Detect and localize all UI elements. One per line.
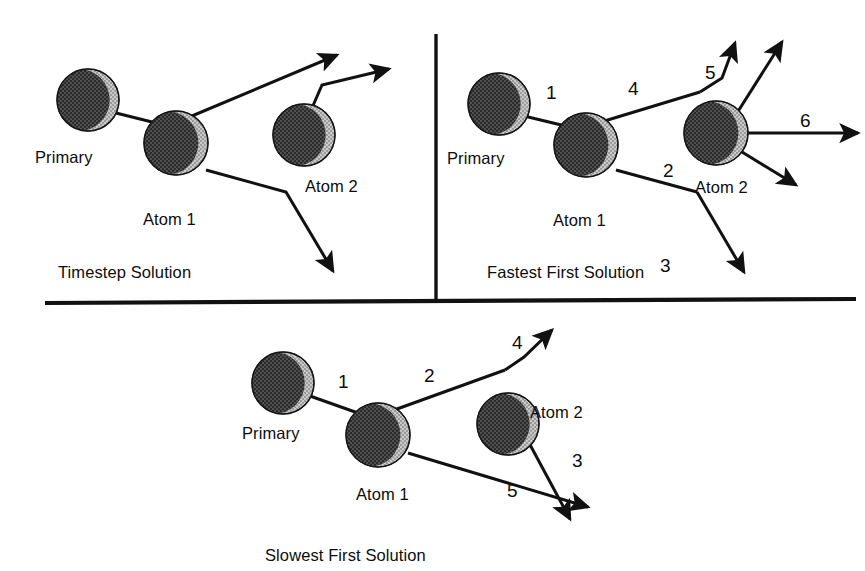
atom-label-timestep-primary: Primary xyxy=(35,148,93,167)
order-label-fastest-first-segment-4: 4 xyxy=(628,78,639,100)
cascade-solution-figure: PrimaryAtom 1Atom 2Timestep SolutionPrim… xyxy=(0,0,865,571)
atom-sphere-fastest-first-atom-2 xyxy=(674,101,748,165)
atom-sphere-fastest-first-primary xyxy=(459,73,530,135)
trajectory-timestep-atom2-recoil-up xyxy=(312,69,389,108)
atom-label-slowest-first-atom-2: Atom 2 xyxy=(530,403,583,422)
panel-caption-slowest-first: Slowest First Solution xyxy=(265,546,426,565)
order-label-slowest-first-segment-3: 3 xyxy=(572,450,583,472)
atom-label-slowest-first-primary: Primary xyxy=(242,424,300,443)
atom-sphere-timestep-atom-2 xyxy=(264,104,335,166)
trajectory-slowest-first-segment-3 xyxy=(528,441,570,519)
trajectory-slowest-first-segment-5 xyxy=(408,453,588,507)
order-label-slowest-first-segment-5: 5 xyxy=(507,480,518,502)
atom-label-timestep-atom-1: Atom 1 xyxy=(143,210,196,229)
order-label-slowest-first-segment-4: 4 xyxy=(512,332,523,354)
atom-sphere-slowest-first-atom-1 xyxy=(336,403,410,467)
order-label-fastest-first-segment-3: 3 xyxy=(660,255,671,277)
order-label-slowest-first-segment-1: 1 xyxy=(338,371,349,393)
order-label-fastest-first-segment-2: 2 xyxy=(663,160,674,182)
atom-label-fastest-first-atom-2: Atom 2 xyxy=(695,178,748,197)
atom-sphere-slowest-first-atom-2 xyxy=(468,393,539,455)
panel-caption-timestep: Timestep Solution xyxy=(58,263,191,282)
atom-label-slowest-first-atom-1: Atom 1 xyxy=(356,485,409,504)
order-label-fastest-first-segment-6: 6 xyxy=(800,110,811,132)
trajectory-fastest-first-segment-atom2-down xyxy=(742,152,796,185)
atom-sphere-timestep-primary xyxy=(48,69,119,131)
atom-sphere-slowest-first-primary xyxy=(243,352,314,414)
trajectory-fastest-first-segment-2 xyxy=(616,170,697,192)
trajectory-fastest-first-segment-atom2-up xyxy=(737,42,782,113)
order-label-slowest-first-segment-2: 2 xyxy=(424,365,435,387)
horizontal-divider xyxy=(45,299,856,303)
trajectory-fastest-first-segment-3 xyxy=(697,192,744,272)
diagram-canvas xyxy=(0,0,865,571)
atom-label-timestep-atom-2: Atom 2 xyxy=(305,177,358,196)
panel-caption-fastest-first: Fastest First Solution xyxy=(487,263,644,282)
order-label-fastest-first-segment-5: 5 xyxy=(705,62,716,84)
atom-label-fastest-first-primary: Primary xyxy=(447,149,505,168)
order-label-fastest-first-segment-1: 1 xyxy=(546,82,557,104)
atom-label-fastest-first-atom-1: Atom 1 xyxy=(553,211,606,230)
